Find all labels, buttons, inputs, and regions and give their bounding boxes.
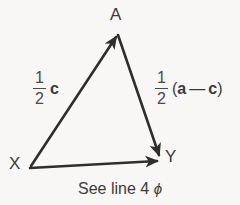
vector-triangle-figure: A X Y 1 2 c 1 2 ( a — c ) See line 4 ϕ — [0, 0, 240, 205]
fraction-bar — [33, 88, 46, 89]
fraction-denominator: 2 — [34, 91, 45, 107]
vertex-label-a: A — [110, 6, 121, 23]
fraction-numerator: 1 — [156, 70, 167, 86]
vertex-label-x: X — [9, 155, 20, 172]
fraction-one-half: 1 2 — [33, 70, 46, 107]
fraction-one-half: 1 2 — [155, 70, 168, 107]
vector-symbol-a: a — [177, 81, 186, 97]
vector-symbol-c: c — [50, 81, 59, 97]
vector-label-half-c: 1 2 c — [33, 70, 59, 107]
caption-text: See line 4 — [78, 180, 149, 197]
close-paren: ) — [217, 81, 222, 97]
vector-symbol-c: c — [208, 81, 217, 97]
figure-caption: See line 4 ϕ — [0, 181, 240, 197]
vertex-label-y: Y — [165, 148, 176, 165]
phi-symbol: ϕ — [154, 180, 162, 197]
fraction-denominator: 2 — [156, 91, 167, 107]
vector-x-to-y — [30, 161, 157, 168]
vector-label-half-a-minus-c: 1 2 ( a — c ) — [155, 70, 222, 107]
minus-operator: — — [189, 81, 205, 97]
vector-a-to-y — [118, 35, 159, 155]
fraction-bar — [155, 88, 168, 89]
fraction-numerator: 1 — [34, 70, 45, 86]
